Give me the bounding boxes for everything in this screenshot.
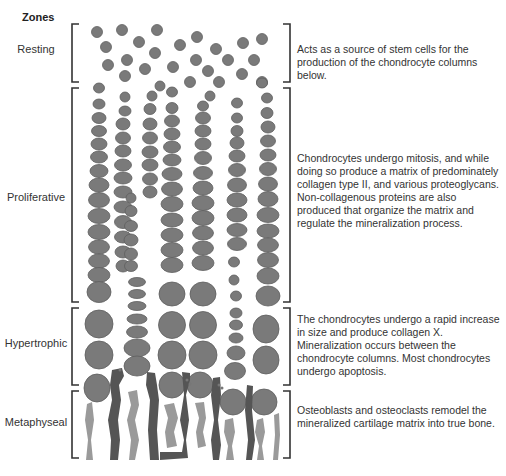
column-1 bbox=[84, 83, 113, 402]
growth-plate-diagram bbox=[0, 0, 506, 476]
column-5 bbox=[187, 91, 217, 398]
column-7 bbox=[251, 78, 280, 415]
resting-cells bbox=[92, 25, 268, 88]
column-4 bbox=[155, 81, 186, 398]
column-6 bbox=[220, 98, 247, 415]
right-brackets bbox=[283, 24, 290, 458]
left-brackets bbox=[72, 24, 79, 458]
